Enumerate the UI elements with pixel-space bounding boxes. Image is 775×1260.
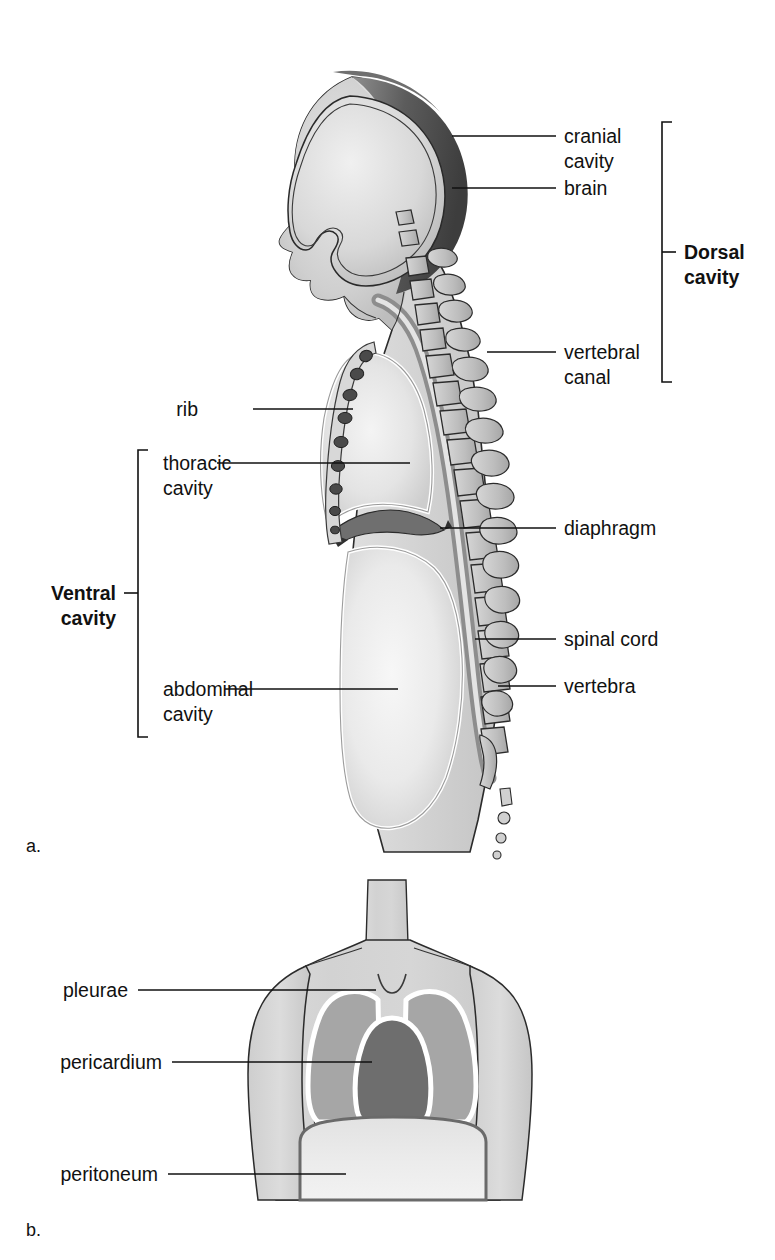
label-thoracic-cavity-line2: cavity <box>163 477 213 499</box>
label-pleurae: pleurae <box>63 979 128 1001</box>
label-abdominal-cavity-line2: cavity <box>163 703 213 725</box>
label-diaphragm: diaphragm <box>564 517 656 539</box>
figure-canvas: cranial cavity brain vertebral canal Dor… <box>0 0 775 1260</box>
label-ventral-cavity-line2: cavity <box>61 607 116 629</box>
pericardium-region <box>355 1018 431 1122</box>
neck <box>366 880 408 944</box>
label-abdominal-cavity-line1: abdominal <box>163 678 253 700</box>
label-ventral-cavity-line1: Ventral <box>51 582 116 604</box>
label-pericardium: pericardium <box>60 1051 162 1073</box>
label-dorsal-cavity-line1: Dorsal <box>684 241 745 263</box>
panel-letter-a: a. <box>26 836 41 856</box>
body-cavities-figure: cranial cavity brain vertebral canal Dor… <box>0 0 775 1260</box>
bracket-ventral-cavity <box>138 450 148 737</box>
label-vertebral-canal-line2: canal <box>564 366 611 388</box>
coccyx-fragments <box>493 788 512 859</box>
label-rib: rib <box>176 398 198 420</box>
label-vertebral-canal-line1: vertebral <box>564 341 640 363</box>
label-thoracic-cavity-line1: thoracic <box>163 452 232 474</box>
label-cranial-cavity-line1: cranial <box>564 125 621 147</box>
panel-b-illustration <box>248 880 532 1200</box>
abdominal-cavity-region <box>340 547 462 828</box>
peritoneum-region <box>300 1117 486 1200</box>
label-spinal-cord: spinal cord <box>564 628 658 650</box>
label-dorsal-cavity-line2: cavity <box>684 266 739 288</box>
label-cranial-cavity-line2: cavity <box>564 150 614 172</box>
panel-letter-b: b. <box>26 1220 41 1240</box>
label-peritoneum: peritoneum <box>60 1163 158 1185</box>
panel-b-labels: pleurae pericardium peritoneum b. <box>26 979 162 1240</box>
label-vertebra: vertebra <box>564 675 636 697</box>
panel-a-illustration <box>279 71 519 859</box>
label-brain: brain <box>564 177 607 199</box>
